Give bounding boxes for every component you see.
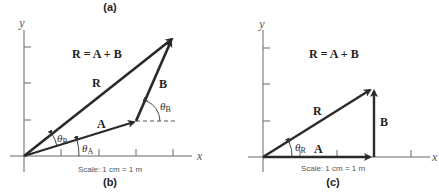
theta-R-label: θR xyxy=(295,141,306,155)
vector-B-label: B xyxy=(380,115,388,129)
theta-R-label: θR xyxy=(57,132,68,146)
vector-addition-figure: (a) y x R = A + B R A B θR θA θB xyxy=(0,0,439,195)
y-axis-label: y xyxy=(258,17,265,31)
theta-A-arc xyxy=(77,140,79,156)
panel-b: y x R = A + B R A B θR θA θB Scale: 1 cm… xyxy=(10,16,203,188)
vector-R-label: R xyxy=(92,76,101,90)
y-axis-label: y xyxy=(18,16,25,30)
theta-B-arc xyxy=(147,101,160,121)
theta-R-arc xyxy=(289,142,292,157)
scale-text: Scale: 1 cm = 1 m xyxy=(78,165,143,174)
x-axis-label: x xyxy=(196,149,203,163)
theta-A-label: θA xyxy=(82,142,93,156)
vector-R-label: R xyxy=(313,104,322,118)
panel-b-caption: (b) xyxy=(103,176,117,188)
scale-text: Scale: 1 cm = 1 m xyxy=(301,164,366,173)
vector-A-label: A xyxy=(97,117,106,131)
panel-a-caption: (a) xyxy=(103,1,117,13)
x-axis-label: x xyxy=(431,150,438,164)
vector-B-label: B xyxy=(159,77,167,91)
equation-label: R = A + B xyxy=(72,47,122,61)
equation-label: R = A + B xyxy=(309,47,359,61)
vector-A-label: A xyxy=(314,142,323,156)
panel-c: y x R = A + B R A B θR Scale: 1 cm = 1 m… xyxy=(248,17,438,188)
panel-c-caption: (c) xyxy=(326,176,340,188)
theta-B-label: θB xyxy=(160,100,171,114)
